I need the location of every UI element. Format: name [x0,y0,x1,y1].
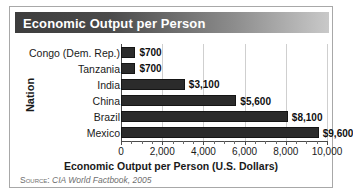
bar-row: $700 [121,47,327,58]
bar-value-label: $8,100 [288,111,323,122]
bar [121,47,135,58]
source-note: Source: CIA World Factbook, 2005 [20,175,151,185]
bar [121,79,185,90]
x-tick-label: 6,000 [232,146,257,157]
bar-value-label: $9,600 [319,127,353,138]
x-axis-title: Economic Output per Person (U.S. Dollars… [10,160,332,172]
bar [121,63,135,74]
x-tick-minor [183,141,184,144]
y-axis-tick-label: China [93,94,120,108]
bar-row: $700 [121,63,327,74]
x-tick-major [327,141,328,145]
y-axis-tick-labels: Congo (Dem. Rep.)TanzaniaIndiaChinaBrazi… [34,44,120,141]
x-tick-minor [193,141,194,144]
x-tick-minor [296,141,297,144]
bar-value-label: $5,600 [236,95,271,106]
x-tick-minor [142,141,143,144]
x-tick-minor [276,141,277,144]
x-tick-minor [265,141,266,144]
x-tick-label: 2,000 [150,146,175,157]
bar-value-label: $3,100 [185,79,220,90]
bar-row: $9,600 [121,127,327,138]
bar-row: $5,600 [121,95,327,106]
x-tick-minor [224,141,225,144]
x-tick-major [162,141,163,145]
x-tick-minor [306,141,307,144]
bar-value-label: $700 [135,63,161,74]
x-tick-major [203,141,204,145]
x-tick-minor [131,141,132,144]
x-tick-minor [317,141,318,144]
x-tick-minor [173,141,174,144]
x-tick-label: 0 [118,146,124,157]
x-tick-label: 10,000 [312,146,343,157]
chart-figure: Economic Output per Person Nation Congo … [9,6,333,188]
bar [121,127,319,138]
x-tick-minor [234,141,235,144]
x-tick-major [245,141,246,145]
source-label: Source: [20,175,50,185]
bar [121,111,288,122]
plot-area: $700$700$3,100$5,600$8,100$9,600 [121,44,327,141]
x-tick-minor [214,141,215,144]
y-axis-tick-label: Brazil [94,110,120,124]
y-axis-tick-label: Mexico [87,126,120,140]
y-axis-tick-label: India [97,78,120,92]
x-tick-major [286,141,287,145]
bar [121,95,236,106]
x-tick-label: 4,000 [191,146,216,157]
x-tick-label: 8,000 [273,146,298,157]
x-tick-minor [255,141,256,144]
bar-row: $8,100 [121,111,327,122]
bar-row: $3,100 [121,79,327,90]
bar-value-label: $700 [135,47,161,58]
source-citation: CIA World Factbook, 2005 [52,175,151,185]
x-tick-major [121,141,122,145]
x-tick-minor [152,141,153,144]
chart-plot-wrapper: Nation Congo (Dem. Rep.)TanzaniaIndiaChi… [10,7,332,187]
y-axis-tick-label: Tanzania [78,62,120,76]
y-axis-tick-label: Congo (Dem. Rep.) [29,46,120,60]
